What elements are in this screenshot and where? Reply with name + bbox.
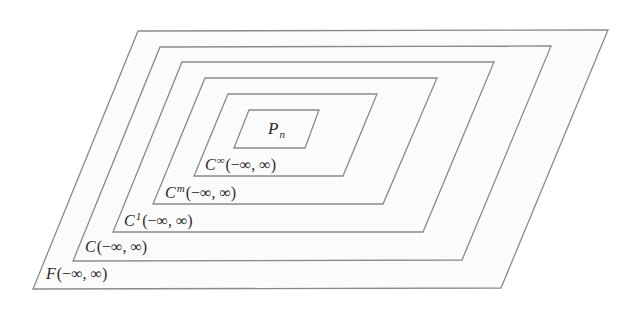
label-Cm: Cm(−∞, ∞) <box>165 183 236 201</box>
label-Cinf-letter: C <box>205 156 216 173</box>
label-Cm-letter: C <box>165 184 176 201</box>
label-C: C(−∞, ∞) <box>85 239 147 255</box>
label-C1-letter: C <box>124 212 135 229</box>
label-Cinf: C∞(−∞, ∞) <box>205 155 276 173</box>
label-C1-interval: (−∞, ∞) <box>142 212 193 229</box>
label-C-letter: C <box>85 238 96 255</box>
label-C1-superscript: 1 <box>136 210 142 222</box>
label-Cm-superscript: m <box>177 182 185 194</box>
label-F-letter: F <box>46 265 56 282</box>
label-Cm-interval: (−∞, ∞) <box>186 184 237 201</box>
label-F: F(−∞, ∞) <box>46 266 107 282</box>
label-F-interval: (−∞, ∞) <box>57 265 108 282</box>
label-Pn-subscript: n <box>279 128 285 140</box>
label-Pn: Pn <box>268 120 285 140</box>
label-Cinf-superscript: ∞ <box>217 154 225 166</box>
label-Pn-letter: P <box>268 119 278 138</box>
label-C-interval: (−∞, ∞) <box>97 238 148 255</box>
label-C1: C1(−∞, ∞) <box>124 211 193 229</box>
label-Cinf-interval: (−∞, ∞) <box>226 156 277 173</box>
